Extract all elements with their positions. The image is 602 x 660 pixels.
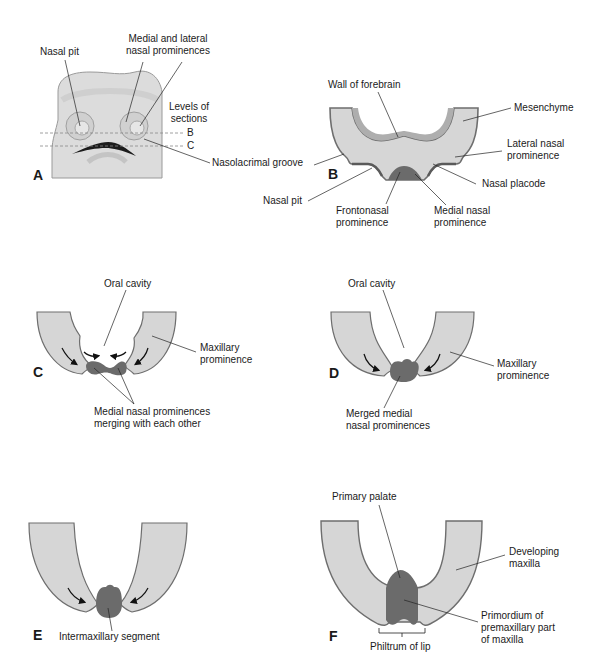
label-mesenchyme: Mesenchyme <box>514 102 573 114</box>
label-medial-nasal-prominence: Medial nasal prominence <box>434 205 490 229</box>
panel-e-section <box>29 523 187 631</box>
panel-b-section <box>308 92 511 205</box>
label-merged-medial-nasal: Merged medial nasal prominences <box>346 408 430 432</box>
panel-letter-d: D <box>329 366 339 380</box>
label-level-c: C <box>187 140 194 152</box>
panel-letter-a: A <box>33 168 43 182</box>
panel-d-section <box>331 290 494 408</box>
label-oral-cavity-c: Oral cavity <box>104 278 151 290</box>
panel-letter-f: F <box>329 629 338 643</box>
label-nasolacrimal-groove: Nasolacrimal groove <box>212 157 303 169</box>
panel-f-section <box>321 505 505 637</box>
panel-letter-c: C <box>33 365 43 379</box>
label-lateral-nasal-prominence: Lateral nasal prominence <box>507 138 564 162</box>
label-philtrum-of-lip: Philtrum of lip <box>370 641 431 653</box>
label-intermaxillary-segment: Intermaxillary segment <box>59 631 160 643</box>
panel-c-section <box>37 290 196 404</box>
label-wall-of-forebrain: Wall of forebrain <box>328 79 400 91</box>
label-nasal-pit-a: Nasal pit <box>40 46 79 58</box>
label-medial-lateral-nasal-prominences: Medial and lateral nasal prominences <box>126 33 210 57</box>
label-maxillary-prominence-c: Maxillary prominence <box>200 342 252 366</box>
label-oral-cavity-d: Oral cavity <box>348 278 395 290</box>
label-maxillary-prominence-d: Maxillary prominence <box>497 358 549 382</box>
label-premaxillary-primordium: Primordium of premaxillary part of maxil… <box>481 610 555 646</box>
label-medial-nasal-merging: Medial nasal prominences merging with ea… <box>94 406 210 430</box>
label-levels-of-sections: Levels of sections <box>169 101 209 125</box>
panel-letter-b: B <box>328 167 338 181</box>
label-developing-maxilla: Developing maxilla <box>509 546 559 570</box>
label-nasal-placode: Nasal placode <box>482 178 545 190</box>
panel-letter-e: E <box>33 628 42 642</box>
label-frontonasal-prominence: Frontonasal prominence <box>336 205 389 229</box>
label-level-b: B <box>187 127 194 139</box>
label-primary-palate: Primary palate <box>332 491 396 503</box>
label-nasal-pit-b: Nasal pit <box>263 195 302 207</box>
